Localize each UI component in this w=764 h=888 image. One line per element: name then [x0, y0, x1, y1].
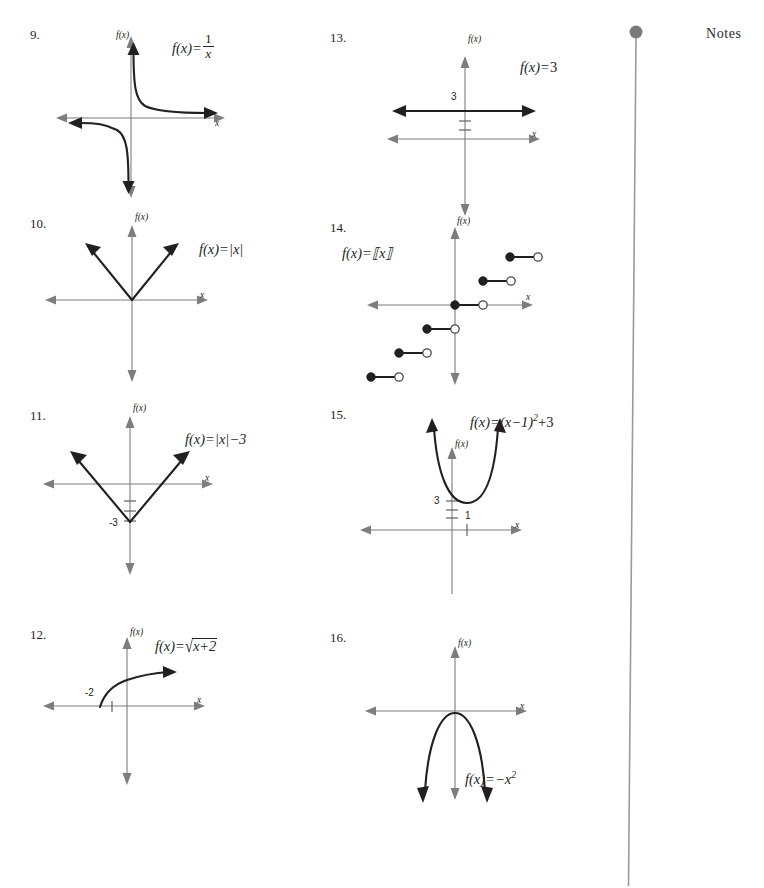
- problem-15-graph: f(x) x 3 1: [345, 402, 575, 597]
- notes-label: Notes: [706, 26, 742, 42]
- problem-16-equation-fn: f(x)=: [465, 771, 495, 787]
- problem-9-fraction-denominator: x: [203, 47, 214, 61]
- problem-11-equation-body: |x|−3: [215, 431, 246, 447]
- problem-10-equation-fn: f(x)=: [199, 241, 229, 257]
- problem-12: 12. f(x) x -2 f(x)=√x+2: [0, 600, 320, 800]
- problem-16-y-axis-label: f(x): [458, 638, 471, 648]
- problem-16-equation-exponent: 2: [511, 769, 516, 780]
- problem-16-number: 16.: [330, 630, 346, 646]
- problem-10-equation-body: |x|: [229, 241, 243, 257]
- problem-13-equation-fn: f(x)=: [520, 59, 550, 75]
- problem-14-graph: f(x) x: [350, 216, 580, 401]
- problem-15-equation-fn: f(x)=: [470, 414, 500, 430]
- problem-15-number: 15.: [330, 407, 346, 423]
- problem-10-x-axis-label: x: [200, 290, 204, 300]
- problem-10-graph: f(x) x: [35, 212, 245, 397]
- problem-13-graph: f(x) x 3: [350, 24, 570, 204]
- worksheet-page: Notes 9. f(x) x: [0, 0, 764, 888]
- problem-15-x-axis-label: x: [515, 520, 519, 530]
- problem-13-equation-body: 3: [550, 59, 557, 75]
- problem-11-vertex-label: -3: [109, 517, 118, 528]
- problem-10-equation: f(x)=|x|: [199, 242, 243, 257]
- problem-14-number: 14.: [330, 220, 346, 236]
- problem-16: 16. f(x) x f(x)=−x2: [320, 600, 640, 810]
- problem-16-equation: f(x)=−x2: [465, 770, 516, 786]
- problem-14-equation: f(x)=⟦x⟧: [342, 246, 392, 261]
- problem-9-equation-fn: f(x)=: [172, 40, 202, 56]
- problem-14-x-axis-label: x: [526, 292, 530, 302]
- problem-9-number: 9.: [30, 27, 40, 43]
- problem-13-y-tick-label: 3: [451, 91, 457, 102]
- problem-15-equation-body-b: +3: [538, 414, 553, 430]
- problem-9-graph: f(x) x: [45, 22, 245, 202]
- problem-10: 10. f(x) x f(x)=|x|: [0, 200, 320, 395]
- problem-11-x-axis-label: x: [205, 473, 209, 483]
- problem-9: 9. f(x) x f(x)=1: [0, 0, 320, 200]
- problem-9-fraction-numerator: 1: [203, 32, 214, 47]
- problem-14-y-axis-label: f(x): [457, 216, 470, 226]
- problem-15-y-axis-label: f(x): [455, 439, 468, 449]
- problem-12-equation-fn: f(x)=: [155, 638, 185, 654]
- problem-9-x-axis-label: x: [215, 118, 219, 128]
- problem-11-y-axis-label: f(x): [133, 403, 146, 413]
- problem-15-equation: f(x)=(x−1)2+3: [470, 413, 553, 429]
- problem-10-y-axis-label: f(x): [135, 212, 148, 222]
- problem-16-equation-body-a: −x: [495, 771, 511, 787]
- problem-13-y-axis-label: f(x): [468, 34, 481, 44]
- problem-9-equation: f(x)=1x: [172, 32, 215, 62]
- problem-15-x-tick-label: 1: [465, 510, 471, 521]
- problem-12-x-tick-label: -2: [85, 687, 94, 698]
- problem-16-x-axis-label: x: [520, 701, 524, 711]
- problem-11-equation-fn: f(x)=: [185, 431, 215, 447]
- problem-12-equation: f(x)=√x+2: [155, 638, 217, 654]
- problem-9-y-axis-label: f(x): [116, 30, 129, 40]
- problem-15-equation-body-a: (x−1): [500, 414, 533, 430]
- problem-12-radicand: x+2: [192, 638, 217, 654]
- problem-13-number: 13.: [330, 30, 346, 46]
- problem-12-y-axis-label: f(x): [130, 627, 143, 637]
- problem-13-x-axis-label: x: [532, 129, 536, 139]
- problem-13: 13. f(x) x 3 f(x)=3: [320, 0, 640, 200]
- problem-11: 11. f(x) x -3: [0, 395, 320, 595]
- problem-13-equation: f(x)=3: [520, 60, 557, 75]
- problem-15-y-tick-label: 3: [434, 495, 440, 506]
- radical-icon: √: [185, 637, 193, 655]
- problem-15: 15. f(x) x 3: [320, 395, 640, 595]
- problem-11-equation: f(x)=|x|−3: [185, 432, 246, 447]
- problem-14-equation-body: ⟦x⟧: [372, 245, 392, 261]
- problem-14: 14.: [320, 200, 640, 395]
- problem-12-x-axis-label: x: [197, 695, 201, 705]
- problem-14-equation-fn: f(x)=: [342, 245, 372, 261]
